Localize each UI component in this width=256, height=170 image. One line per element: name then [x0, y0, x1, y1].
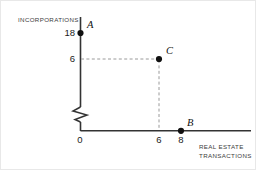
data-point-b: [178, 128, 184, 134]
data-point-c: [156, 56, 162, 62]
data-point-a: [77, 30, 83, 36]
point-label-c: C: [166, 45, 173, 56]
x-axis-title: REAL ESTATE TRANSACTIONS: [199, 143, 252, 160]
x-axis-title-line-2: TRANSACTIONS: [199, 152, 252, 161]
y-tick-label-18: 18: [53, 27, 75, 38]
x-tick-label-6: 6: [151, 134, 167, 145]
x-tick-label-0: 0: [72, 134, 88, 145]
y-tick-label-6: 6: [53, 53, 75, 64]
x-tick-label-8: 8: [173, 134, 189, 145]
y-axis-break-icon: [73, 107, 87, 122]
y-axis-title: INCORPORATIONS: [18, 16, 79, 25]
point-label-b: B: [187, 117, 193, 128]
point-label-a: A: [87, 19, 93, 30]
x-axis-title-line-1: REAL ESTATE: [199, 143, 252, 152]
chart-figure: INCORPORATIONS REAL ESTATE TRANSACTIONS …: [0, 0, 256, 170]
